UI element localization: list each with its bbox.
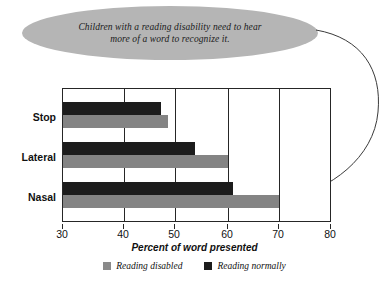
legend-label-reading-disabled: Reading disabled: [116, 261, 182, 271]
bar-stop-reading-normally: [63, 102, 161, 115]
category-label-stop: Stop: [33, 111, 56, 123]
callout-line-1: Children with a reading disability need …: [78, 22, 261, 32]
gridline-70: [279, 89, 280, 221]
legend-item-reading-disabled: Reading disabled: [103, 261, 182, 271]
xtick-label-80: 80: [324, 228, 336, 240]
callout-ellipse: Children with a reading disability need …: [22, 6, 318, 60]
xtick-label-30: 30: [56, 228, 68, 240]
legend-swatch-icon-gray: [103, 262, 111, 270]
category-label-nasal: Nasal: [28, 191, 56, 203]
callout-line-2: more of a word to recognize it.: [65, 33, 275, 45]
bar-stop-reading-disabled: [63, 115, 168, 128]
x-axis-title: Percent of word presented: [0, 242, 389, 253]
bar-lateral-reading-disabled: [63, 155, 228, 168]
plot-area: [62, 88, 331, 222]
legend-swatch-icon-dark: [204, 262, 212, 270]
bar-nasal-reading-disabled: [63, 195, 279, 208]
chart-figure: Children with a reading disability need …: [0, 0, 389, 290]
bar-nasal-reading-normally: [63, 182, 233, 195]
xtick-label-50: 50: [168, 228, 180, 240]
callout-text: Children with a reading disability need …: [65, 21, 275, 45]
bar-lateral-reading-normally: [63, 142, 195, 155]
chart-legend: Reading disabled Reading normally: [0, 261, 389, 271]
xtick-label-60: 60: [221, 228, 233, 240]
legend-item-reading-normally: Reading normally: [204, 261, 285, 271]
xtick-label-70: 70: [272, 228, 284, 240]
legend-label-reading-normally: Reading normally: [217, 261, 285, 271]
category-label-lateral: Lateral: [22, 151, 56, 163]
xtick-label-40: 40: [117, 228, 129, 240]
